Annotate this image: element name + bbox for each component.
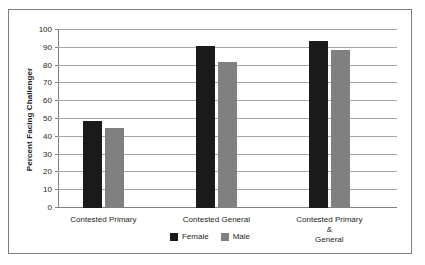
bar-female-1 (196, 46, 215, 208)
x-axis-category-label: Contested Primary (70, 215, 136, 225)
y-tick-label-70: 70 (43, 79, 52, 87)
bar-male-2 (331, 50, 350, 208)
bar-group: Contested Primary (58, 30, 171, 208)
bar-female-0 (83, 121, 102, 208)
legend-swatch-female (170, 233, 178, 241)
y-tick-label-50: 50 (43, 115, 52, 123)
y-tick-label-60: 60 (43, 97, 52, 105)
legend-item-male[interactable]: Male (221, 233, 250, 241)
bar-group: Contested Primary & General (284, 30, 397, 208)
legend-label-male: Male (233, 233, 250, 241)
y-axis-title: Percent Facing Challenger (23, 30, 37, 208)
chart-legend: FemaleMale (9, 233, 411, 241)
legend-label-female: Female (182, 233, 209, 241)
bar-female-2 (309, 41, 328, 208)
y-tick-label-0: 0 (48, 204, 52, 212)
y-tick-label-20: 20 (43, 168, 52, 176)
x-axis-category-label: Contested General (183, 215, 250, 225)
y-tick-label-40: 40 (43, 133, 52, 141)
plot-area: 0102030405060708090100 Contested Primary… (58, 30, 397, 208)
legend-swatch-male (221, 233, 229, 241)
chart-frame: Percent Facing Challenger 01020304050607… (8, 9, 412, 254)
bar-male-1 (218, 62, 237, 208)
y-tick-label-100: 100 (39, 26, 52, 34)
y-tick-label-10: 10 (43, 186, 52, 194)
legend-item-female[interactable]: Female (170, 233, 209, 241)
bar-male-0 (105, 128, 124, 208)
y-tick-label-30: 30 (43, 151, 52, 159)
bar-group: Contested General (171, 30, 284, 208)
y-tick-label-80: 80 (43, 62, 52, 70)
y-tick-label-90: 90 (43, 44, 52, 52)
y-axis-title-text: Percent Facing Challenger (26, 67, 35, 170)
